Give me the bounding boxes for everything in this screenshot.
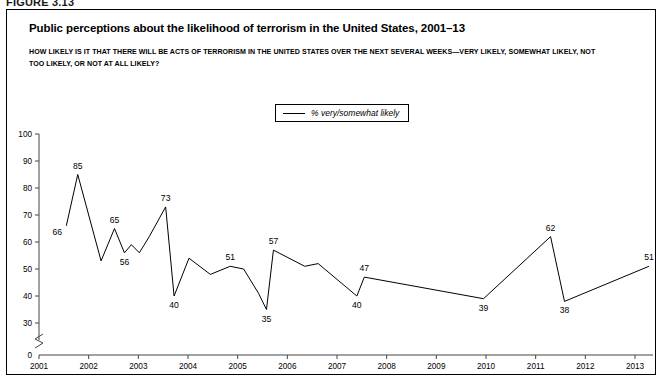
x-axis-tick-label: 2002 — [80, 362, 99, 371]
y-axis-tick-label: 60 — [23, 238, 33, 247]
x-axis-tick-label: 2008 — [378, 362, 397, 371]
x-axis-tick-label: 2004 — [179, 362, 198, 371]
data-line-series — [66, 175, 649, 310]
data-point-label: 73 — [161, 193, 171, 203]
data-point-label: 35 — [262, 314, 272, 324]
y-axis-tick-label: 40 — [23, 292, 33, 301]
y-axis-tick-label: 80 — [23, 184, 33, 193]
y-axis-origin-label: 0 — [27, 351, 32, 360]
y-axis-break-icon — [35, 334, 43, 348]
y-axis-tick-label: 30 — [23, 319, 33, 328]
chart-plot-area: 3040506070809010002001200220032004200520… — [7, 10, 657, 376]
figure-number-label: FIGURE 3.13 — [6, 0, 74, 8]
x-axis-tick-label: 2001 — [30, 362, 49, 371]
x-axis-tick-label: 2006 — [278, 362, 297, 371]
data-point-label: 40 — [352, 300, 362, 310]
data-point-label: 66 — [53, 227, 63, 237]
data-point-label: 39 — [479, 303, 489, 313]
x-axis-tick-label: 2011 — [527, 362, 545, 371]
x-axis-tick-label: 2007 — [328, 362, 347, 371]
y-axis-tick-label: 100 — [18, 130, 32, 139]
y-axis-tick-label: 90 — [23, 157, 33, 166]
data-point-label: 62 — [546, 223, 556, 233]
x-axis-tick-label: 2003 — [129, 362, 148, 371]
data-point-label: 65 — [110, 215, 120, 225]
x-axis-tick-label: 2005 — [229, 362, 248, 371]
line-chart-svg: 3040506070809010002001200220032004200520… — [7, 10, 657, 376]
data-point-label: 57 — [269, 236, 279, 246]
x-axis-tick-label: 2009 — [427, 362, 446, 371]
data-point-label: 38 — [560, 305, 570, 315]
y-axis-tick-label: 70 — [23, 211, 33, 220]
x-axis-tick-label: 2012 — [576, 362, 595, 371]
data-point-label: 47 — [360, 263, 370, 273]
data-point-label: 40 — [169, 300, 179, 310]
figure-panel: Public perceptions about the likelihood … — [6, 9, 656, 375]
y-axis-tick-label: 50 — [23, 265, 33, 274]
x-axis-tick-label: 2013 — [626, 362, 645, 371]
data-point-label: 56 — [120, 257, 130, 267]
data-point-label: 51 — [225, 252, 235, 262]
x-axis-tick-label: 2010 — [477, 362, 496, 371]
data-point-label: 51 — [644, 252, 654, 262]
data-point-label: 85 — [73, 161, 83, 171]
